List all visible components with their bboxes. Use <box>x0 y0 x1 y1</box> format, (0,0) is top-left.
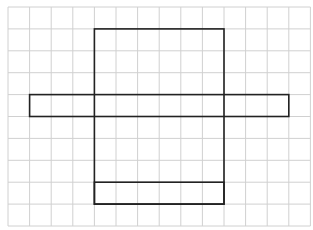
diagram-canvas <box>0 0 313 230</box>
grid-diagram <box>0 0 313 230</box>
